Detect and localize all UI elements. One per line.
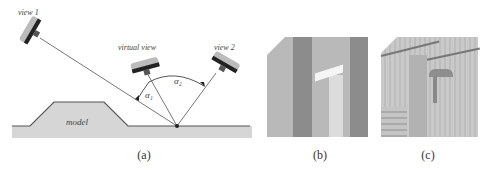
label-alpha1: α₁: [145, 90, 153, 100]
panel-b: [267, 37, 368, 137]
corner-cut: [267, 37, 285, 55]
roof-line-right: [426, 48, 480, 61]
target-point: [175, 124, 179, 128]
caption-c: (c): [408, 148, 448, 163]
camera-view2-icon: [209, 51, 241, 78]
window-left: [381, 107, 407, 137]
label-virtual-view: virtual view: [118, 43, 156, 52]
panel-a: view 1 virtual view view 2 α₁ α₂ model (…: [0, 0, 260, 173]
dark-stripe-left: [293, 37, 312, 137]
label-alpha2: α₂: [174, 76, 182, 86]
camera-view1-icon: [19, 15, 46, 47]
caption-a: (a): [124, 148, 164, 163]
ray-view2: [177, 73, 216, 126]
dark-stripe-right: [350, 37, 368, 137]
panel-c: [381, 37, 478, 137]
window-frame: [433, 77, 437, 103]
label-model: model: [66, 117, 88, 127]
caption-b: (b): [300, 148, 340, 163]
label-view2: view 2: [214, 43, 235, 52]
label-view1: view 1: [18, 8, 39, 17]
building-corner: [409, 55, 427, 137]
light-pillar: [329, 75, 343, 137]
window-arch: [429, 69, 453, 77]
camera-virtual-icon: [130, 57, 161, 79]
